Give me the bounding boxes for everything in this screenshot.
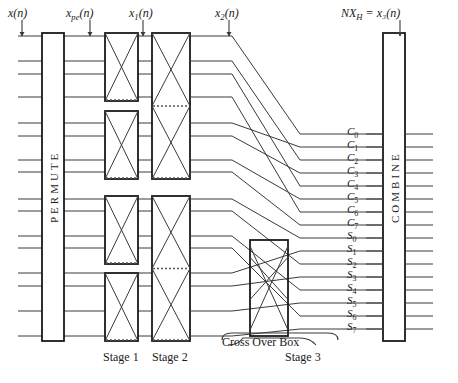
top-label-x-2-of-n-tail: (n) [225,6,239,20]
top-label-nxh-x-3-of-n-base: NX [341,6,356,20]
top-label-x-pe-of-n: xpe(n) [66,6,93,22]
stage-3-label: Stage 3 [285,350,321,365]
cross-over-box-label: Cross Over Box [222,335,299,350]
top-label-x-1-of-n-tail: (n) [139,6,153,20]
combine-block-label: COMBINE [384,33,406,341]
top-label-x-pe-of-n-tail: (n) [79,6,93,20]
top-label-x-of-n: x(n) [8,6,27,21]
stage3-wire-0 [190,36,383,134]
top-label-nxh-x-3-of-n: NXH = x₃(n) [341,6,400,22]
diagram-canvas: PERMUTE COMBINE Cross Over Box Stage 1 S… [0,0,458,383]
stage-1-label: Stage 1 [103,350,139,365]
top-label-x-1-of-n: x1(n) [129,6,153,22]
output-label-S7-sub: 7 [353,326,357,335]
stage-2-label: Stage 2 [152,350,188,365]
top-label-nxh-x-3-of-n-tail: = x₃(n) [363,6,401,20]
permute-block-label: PERMUTE [43,33,65,341]
top-label-x-2-of-n: x2(n) [215,6,239,22]
output-label-S7: S7 [347,321,356,336]
top-label-x-of-n-tail: (n) [13,6,27,20]
